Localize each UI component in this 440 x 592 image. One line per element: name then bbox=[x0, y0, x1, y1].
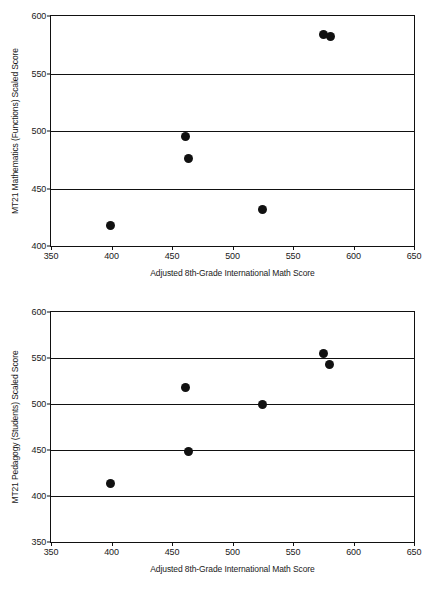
plot-area-bottom: 350400450500550600350400450500550600650 bbox=[50, 311, 415, 543]
x-tick-label-400: 400 bbox=[104, 251, 118, 261]
y-tick-mark-600 bbox=[47, 312, 51, 313]
x-tick-label-350: 350 bbox=[44, 547, 58, 557]
data-point bbox=[184, 447, 193, 456]
gridline-y-550 bbox=[51, 358, 414, 359]
x-tick-mark-600 bbox=[354, 542, 355, 546]
y-axis-title-bottom: MT21 Pedagogy (Students) Scaled Score bbox=[8, 311, 22, 543]
data-point bbox=[184, 154, 193, 163]
gridline-y-550 bbox=[51, 74, 414, 75]
y-tick-label-400: 400 bbox=[32, 491, 46, 501]
x-tick-mark-350 bbox=[51, 246, 52, 250]
x-tick-label-350: 350 bbox=[44, 251, 58, 261]
x-tick-mark-400 bbox=[112, 542, 113, 546]
x-axis-title-top: Adjusted 8th-Grade International Math Sc… bbox=[50, 268, 415, 278]
y-tick-mark-550 bbox=[47, 73, 51, 74]
x-tick-mark-400 bbox=[112, 246, 113, 250]
x-tick-mark-450 bbox=[172, 246, 173, 250]
y-tick-mark-550 bbox=[47, 358, 51, 359]
x-tick-label-650: 650 bbox=[407, 251, 421, 261]
y-axis-title-top: MT21 Mathematics (Functions) Scaled Scor… bbox=[8, 15, 22, 247]
y-tick-mark-500 bbox=[47, 131, 51, 132]
data-point bbox=[325, 360, 334, 369]
data-point bbox=[258, 400, 267, 409]
chart-pedagogy-students: MT21 Pedagogy (Students) Scaled Score 35… bbox=[0, 296, 440, 592]
x-tick-label-550: 550 bbox=[286, 251, 300, 261]
y-tick-mark-450 bbox=[47, 188, 51, 189]
x-tick-label-650: 650 bbox=[407, 547, 421, 557]
gridline-y-400 bbox=[51, 496, 414, 497]
y-axis-title-bottom-text: MT21 Pedagogy (Students) Scaled Score bbox=[10, 350, 20, 503]
x-axis-title-bottom: Adjusted 8th-Grade International Math Sc… bbox=[50, 564, 415, 574]
x-tick-mark-500 bbox=[233, 542, 234, 546]
y-tick-mark-450 bbox=[47, 450, 51, 451]
x-tick-label-500: 500 bbox=[225, 547, 239, 557]
y-tick-label-600: 600 bbox=[32, 307, 46, 317]
y-tick-label-450: 450 bbox=[32, 445, 46, 455]
x-tick-label-600: 600 bbox=[346, 547, 360, 557]
gridline-y-450 bbox=[51, 450, 414, 451]
x-tick-mark-350 bbox=[51, 542, 52, 546]
x-tick-label-500: 500 bbox=[225, 251, 239, 261]
gridline-y-450 bbox=[51, 189, 414, 190]
x-tick-mark-450 bbox=[172, 542, 173, 546]
data-point bbox=[258, 205, 267, 214]
y-tick-label-500: 500 bbox=[32, 126, 46, 136]
data-point bbox=[326, 32, 335, 41]
y-tick-label-550: 550 bbox=[32, 69, 46, 79]
x-tick-mark-650 bbox=[414, 246, 415, 250]
y-tick-label-450: 450 bbox=[32, 184, 46, 194]
y-tick-mark-400 bbox=[47, 496, 51, 497]
x-tick-mark-500 bbox=[233, 246, 234, 250]
chart-mathematics-functions: MT21 Mathematics (Functions) Scaled Scor… bbox=[0, 0, 440, 296]
x-tick-label-550: 550 bbox=[286, 547, 300, 557]
y-tick-label-550: 550 bbox=[32, 353, 46, 363]
y-tick-label-350: 350 bbox=[32, 537, 46, 547]
x-tick-label-450: 450 bbox=[165, 547, 179, 557]
y-axis-title-top-text: MT21 Mathematics (Functions) Scaled Scor… bbox=[10, 48, 20, 214]
y-tick-mark-500 bbox=[47, 404, 51, 405]
x-tick-label-450: 450 bbox=[165, 251, 179, 261]
gridline-y-500 bbox=[51, 404, 414, 405]
x-tick-label-600: 600 bbox=[346, 251, 360, 261]
data-point bbox=[181, 132, 190, 141]
data-point bbox=[106, 479, 115, 488]
y-tick-label-500: 500 bbox=[32, 399, 46, 409]
x-tick-mark-550 bbox=[293, 542, 294, 546]
x-tick-label-400: 400 bbox=[104, 547, 118, 557]
y-tick-label-600: 600 bbox=[32, 11, 46, 21]
data-point bbox=[181, 383, 190, 392]
figure-page: MT21 Mathematics (Functions) Scaled Scor… bbox=[0, 0, 440, 592]
data-point bbox=[319, 349, 328, 358]
data-point bbox=[106, 221, 115, 230]
gridline-y-500 bbox=[51, 131, 414, 132]
y-tick-label-400: 400 bbox=[32, 241, 46, 251]
plot-area-top: 400450500550600350400450500550600650 bbox=[50, 15, 415, 247]
y-tick-mark-600 bbox=[47, 16, 51, 17]
x-tick-mark-650 bbox=[414, 542, 415, 546]
x-tick-mark-550 bbox=[293, 246, 294, 250]
x-tick-mark-600 bbox=[354, 246, 355, 250]
